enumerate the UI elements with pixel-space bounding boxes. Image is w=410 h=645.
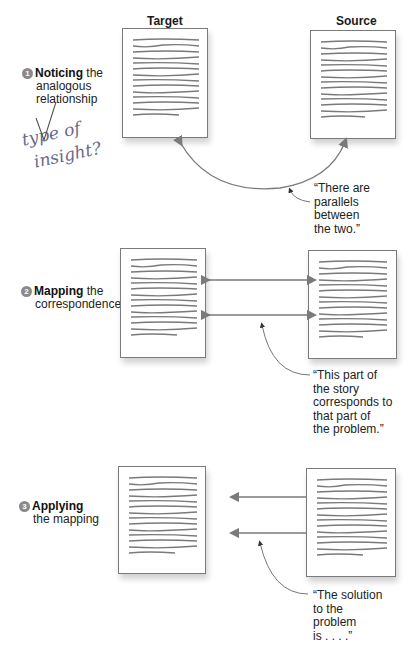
quote-1: “There are parallels between the two.” bbox=[314, 182, 370, 236]
step-3-label: 3Applying the mapping bbox=[19, 500, 99, 526]
quote-2-line: that part of bbox=[313, 410, 392, 424]
document-text-icon bbox=[307, 469, 397, 578]
quote-2-line: corresponds to bbox=[313, 396, 392, 410]
document-target-3 bbox=[118, 466, 206, 574]
step-2-rest: the bbox=[83, 284, 103, 298]
step-2-label: 2Mapping the correspondence bbox=[21, 285, 121, 311]
document-text-icon bbox=[121, 249, 207, 359]
circled-number-icon: 2 bbox=[21, 286, 32, 297]
quote-3-line: to the bbox=[313, 603, 382, 617]
quote-2-line: the story bbox=[313, 383, 392, 397]
quote-1-line: between bbox=[314, 209, 370, 223]
document-text-icon bbox=[119, 467, 207, 575]
quote-2-line: “This part of bbox=[313, 369, 392, 383]
document-text-icon bbox=[309, 251, 398, 360]
step-3-bold: Applying bbox=[32, 499, 83, 513]
document-text-icon bbox=[123, 29, 209, 139]
step-1-rest: the bbox=[83, 66, 103, 80]
document-text-icon bbox=[311, 31, 397, 140]
step-1-bold: Noticing bbox=[35, 66, 83, 80]
document-source-2 bbox=[308, 250, 397, 359]
quote-3: “The solution to the problem is . . . .” bbox=[313, 589, 382, 643]
document-source-3 bbox=[306, 468, 396, 577]
step-3-line2: the mapping bbox=[19, 513, 99, 526]
step-2-line2: correspondence bbox=[21, 298, 121, 311]
step-1-label: 1Noticing the analogous relationship bbox=[22, 67, 103, 106]
column-label-target: Target bbox=[147, 14, 183, 28]
document-target-1 bbox=[122, 28, 208, 138]
circled-number-icon: 3 bbox=[19, 501, 30, 512]
circled-number-icon: 1 bbox=[22, 68, 33, 79]
step-2-bold: Mapping bbox=[34, 284, 83, 298]
quote-1-line: parallels bbox=[314, 196, 370, 210]
quote-3-line: “The solution bbox=[313, 589, 382, 603]
quote-3-line: is . . . .” bbox=[313, 630, 382, 644]
document-source-1 bbox=[310, 30, 396, 139]
quote-1-line: “There are bbox=[314, 182, 370, 196]
document-target-2 bbox=[120, 248, 206, 358]
step-1-line3: relationship bbox=[22, 93, 103, 106]
quote-1-line: the two.” bbox=[314, 223, 370, 237]
column-label-source: Source bbox=[336, 14, 377, 28]
quote-2: “This part of the story corresponds to t… bbox=[313, 369, 392, 437]
quote-3-line: problem bbox=[313, 616, 382, 630]
quote-2-line: the problem.” bbox=[313, 423, 392, 437]
